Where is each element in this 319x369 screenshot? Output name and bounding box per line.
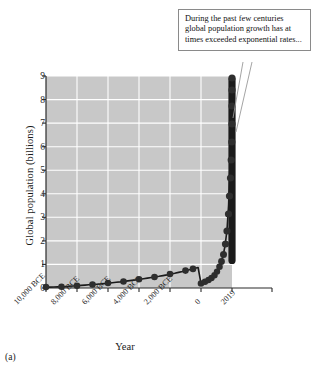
callout-text: During the past few centuries global pop… (185, 14, 302, 44)
x-axis-title: Year (0, 341, 250, 352)
x-tick-2000-bce: 2,000 BCE (142, 274, 174, 306)
y-axis-title: Global population (billions) (24, 91, 35, 281)
x-tick-8000-bce: 8,000 BCE (49, 274, 81, 306)
x-axis-tick-labels: 10,000 BCE 8,000 BCE 6,000 BCE 4,000 BCE… (0, 0, 319, 369)
x-tick-6000-bce: 6,000 BCE (80, 274, 112, 306)
callout-annotation: During the past few centuries global pop… (178, 9, 311, 51)
population-growth-figure: During the past few centuries global pop… (0, 0, 319, 369)
x-tick-0: 0 (193, 297, 202, 306)
x-tick-4000-bce: 4,000 BCE (111, 274, 143, 306)
x-tick-2019: 2019 (219, 288, 237, 306)
figure-panel-label: (a) (5, 352, 16, 362)
